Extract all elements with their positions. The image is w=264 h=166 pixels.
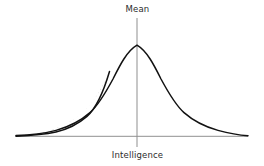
hatch-fill xyxy=(0,0,264,166)
mean-label: Mean xyxy=(11,4,264,14)
skew-arc-path xyxy=(16,72,110,137)
x-axis-label: Intelligence xyxy=(11,150,264,160)
hatched-skew-region xyxy=(0,0,264,166)
distribution-figure: Mean Intelligence xyxy=(0,0,264,166)
normal-curve-path xyxy=(16,45,248,136)
distribution-plot-svg xyxy=(0,0,264,166)
